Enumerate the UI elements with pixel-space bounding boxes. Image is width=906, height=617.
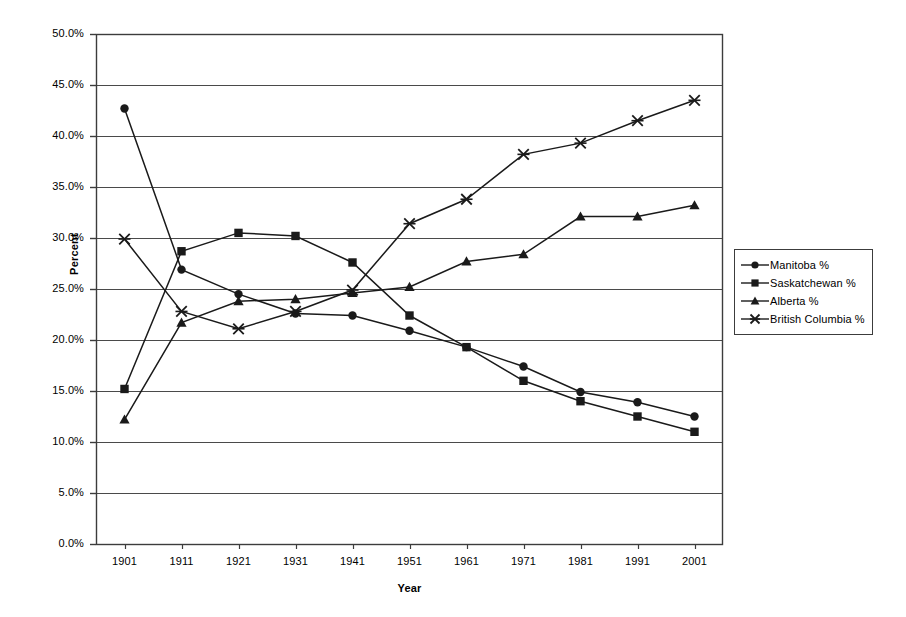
x-tick-label: 1921 — [214, 556, 264, 567]
data-point-circle — [576, 388, 584, 396]
legend-item: Alberta % — [740, 292, 866, 310]
data-point-square — [751, 279, 758, 286]
line-chart: Percent Year 0.0%5.0%10.0%15.0%20.0%25.0… — [0, 0, 906, 617]
x-tick-label: 2001 — [670, 556, 720, 567]
legend-item-label: Saskatchewan % — [770, 277, 856, 289]
y-tick-label: 15.0% — [30, 385, 84, 396]
x-tick-label: 1911 — [157, 556, 207, 567]
axis-ticks — [90, 35, 696, 550]
x-tick-label: 1981 — [556, 556, 606, 567]
data-point-circle — [120, 104, 128, 112]
y-tick-label: 5.0% — [30, 487, 84, 498]
data-point-cross — [631, 115, 643, 126]
y-tick-label: 0.0% — [30, 538, 84, 549]
x-tick-label: 1971 — [499, 556, 549, 567]
series-line — [125, 108, 695, 416]
data-point-triangle — [518, 249, 528, 258]
y-tick-label: 50.0% — [30, 28, 84, 39]
x-tick-label: 1991 — [613, 556, 663, 567]
data-point-cross — [574, 138, 586, 149]
y-tick-label: 40.0% — [30, 130, 84, 141]
legend: Manitoba %Saskatchewan %Alberta %British… — [734, 249, 873, 335]
data-point-cross — [118, 234, 130, 245]
data-point-circle — [519, 362, 527, 370]
data-series — [118, 95, 700, 436]
data-point-triangle — [404, 282, 414, 291]
legend-item-label: British Columbia % — [770, 313, 865, 325]
data-point-cross — [175, 306, 187, 317]
data-point-cross — [688, 95, 700, 106]
x-tick-label: 1931 — [271, 556, 321, 567]
data-point-square — [234, 229, 242, 237]
data-point-triangle — [119, 414, 129, 423]
data-point-square — [348, 258, 356, 266]
legend-item: Saskatchewan % — [740, 274, 866, 292]
data-point-cross — [403, 218, 415, 229]
data-point-square — [177, 247, 185, 255]
y-tick-label: 45.0% — [30, 79, 84, 90]
y-tick-label: 20.0% — [30, 334, 84, 345]
x-axis-title: Year — [96, 582, 723, 594]
legend-item-label: Alberta % — [770, 295, 819, 307]
data-point-triangle — [689, 200, 699, 209]
y-tick-label: 30.0% — [30, 232, 84, 243]
data-point-cross — [517, 149, 529, 160]
data-point-square — [690, 428, 698, 436]
data-point-circle — [751, 261, 758, 268]
x-tick-label: 1961 — [442, 556, 492, 567]
legend-marker-square-icon — [740, 274, 770, 292]
data-point-circle — [177, 265, 185, 273]
series-line — [125, 100, 695, 328]
data-point-square — [462, 343, 470, 351]
y-tick-label: 25.0% — [30, 283, 84, 294]
data-point-circle — [348, 311, 356, 319]
series-manitoba — [120, 104, 698, 420]
data-point-circle — [690, 412, 698, 420]
x-tick-label: 1951 — [385, 556, 435, 567]
data-point-cross — [460, 194, 472, 205]
data-point-square — [405, 311, 413, 319]
y-axis-title: Percent — [68, 194, 80, 314]
legend-item: British Columbia % — [740, 310, 866, 328]
data-point-cross — [750, 315, 760, 324]
x-tick-label: 1941 — [328, 556, 378, 567]
data-point-square — [519, 377, 527, 385]
x-tick-label: 1901 — [100, 556, 150, 567]
legend-marker-cross-icon — [740, 310, 770, 328]
legend-marker-triangle-icon — [740, 292, 770, 310]
series-british-columbia — [118, 95, 700, 334]
data-point-square — [576, 397, 584, 405]
legend-item-label: Manitoba % — [770, 259, 829, 271]
data-point-circle — [405, 327, 413, 335]
data-point-cross — [232, 324, 244, 335]
data-point-square — [120, 385, 128, 393]
y-tick-label: 10.0% — [30, 436, 84, 447]
legend-marker-circle-icon — [740, 256, 770, 274]
data-point-circle — [633, 398, 641, 406]
data-point-square — [291, 232, 299, 240]
legend-item: Manitoba % — [740, 256, 866, 274]
data-point-square — [633, 412, 641, 420]
y-tick-label: 35.0% — [30, 181, 84, 192]
